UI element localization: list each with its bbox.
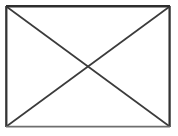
placeholder-graphic bbox=[0, 0, 178, 136]
broken-image-placeholder bbox=[0, 0, 178, 136]
